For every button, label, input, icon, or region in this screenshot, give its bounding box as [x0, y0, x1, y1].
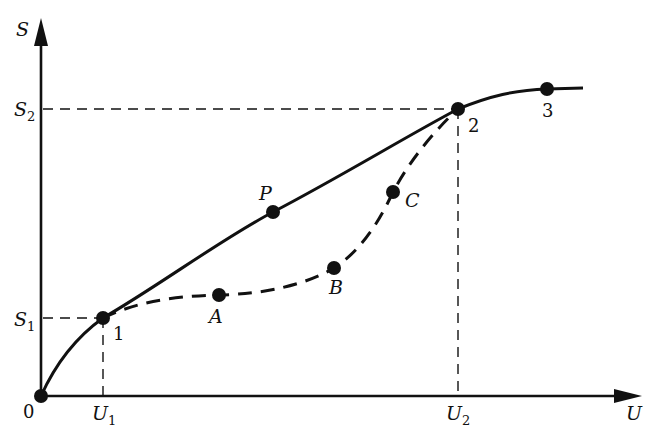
s1-tick-label: S1: [14, 308, 35, 334]
point-1: [96, 311, 110, 325]
point-1-label: 1: [113, 323, 124, 344]
u2-main: U: [446, 402, 463, 424]
point-2-label: 2: [468, 115, 479, 136]
point-C-label: C: [405, 189, 420, 211]
u1-main: U: [92, 402, 109, 424]
s-u-diagram: S U 0 S1 S2 U1 U2 1 2 3 P A B C: [0, 0, 659, 446]
point-C: [386, 185, 400, 199]
equilibrium-curve: [41, 88, 583, 396]
x-axis-label: U: [626, 402, 643, 424]
origin-label: 0: [23, 401, 34, 422]
y-axis-label: S: [16, 18, 29, 40]
origin-point: [34, 389, 48, 403]
s1-main: S: [14, 308, 27, 330]
guide-lines: [43, 109, 458, 396]
u2-tick-label: U2: [446, 402, 470, 428]
u1-tick-label: U1: [92, 402, 116, 428]
x-axis-arrow-icon: [614, 389, 642, 403]
point-3: [540, 82, 554, 96]
s1-sub: 1: [27, 319, 35, 334]
s2-main: S: [14, 98, 27, 120]
s2-sub: 2: [27, 109, 35, 124]
s2-tick-label: S2: [14, 98, 35, 124]
point-B-label: B: [328, 276, 343, 298]
point-A-label: A: [207, 305, 223, 327]
axes: [34, 18, 642, 403]
point-3-label: 3: [542, 100, 553, 121]
u2-sub: 2: [462, 413, 470, 428]
u1-sub: 1: [108, 413, 116, 428]
point-2: [451, 102, 465, 116]
point-A: [212, 288, 226, 302]
point-P: [266, 205, 280, 219]
y-axis-arrow-icon: [34, 18, 48, 46]
point-P-label: P: [258, 182, 273, 204]
point-B: [327, 261, 341, 275]
